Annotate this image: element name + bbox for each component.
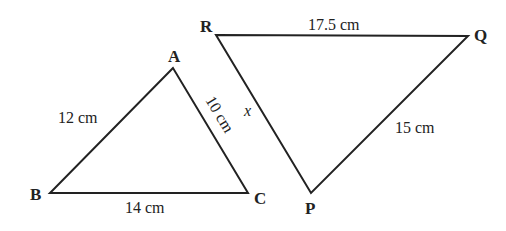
vertex-c-label: C: [254, 189, 266, 208]
triangle-pqr: [216, 35, 468, 193]
side-rq-label: 17.5 cm: [308, 16, 360, 33]
vertex-p-label: P: [305, 199, 315, 218]
side-ac-label: 10 cm: [202, 93, 237, 136]
vertex-a-label: A: [168, 47, 181, 66]
triangle-abc: [50, 68, 248, 193]
side-ab-label: 12 cm: [58, 109, 98, 126]
vertex-b-label: B: [30, 185, 41, 204]
similar-triangles-diagram: A B C 12 cm 14 cm 10 cm R Q P 17.5 cm 15…: [0, 0, 506, 231]
side-pq-label: 15 cm: [395, 119, 435, 136]
vertex-r-label: R: [200, 17, 213, 36]
side-bc-label: 14 cm: [125, 199, 165, 216]
vertex-q-label: Q: [474, 26, 487, 45]
side-rp-label: x: [243, 102, 251, 119]
